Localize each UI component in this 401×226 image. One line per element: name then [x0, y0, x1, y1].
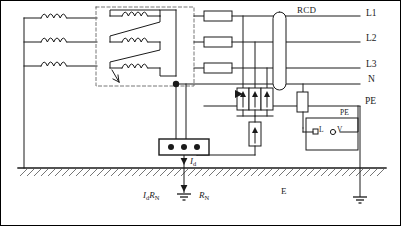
- earth-label: E: [281, 186, 287, 196]
- appliance-label-V: V: [337, 125, 342, 134]
- touch-voltage-label: IdRN: [143, 190, 159, 200]
- fuse-L1: [204, 11, 232, 21]
- fuse-L3: [204, 63, 232, 73]
- appliance-pe-label: PE: [340, 108, 349, 117]
- touch-voltage-sub-N: N: [155, 194, 160, 201]
- terminal-dot-2: [181, 144, 187, 150]
- terminal-dot-3: [194, 144, 200, 150]
- earth-resistance-subscript: N: [205, 194, 210, 201]
- touch-voltage-symbol-R: R: [149, 190, 155, 200]
- appliance-label-L: L: [319, 125, 324, 134]
- rail-label-L3: L3: [366, 59, 377, 69]
- terminal-dot-1: [168, 144, 174, 150]
- fuse-L2: [204, 37, 232, 47]
- rail-label-N: N: [368, 74, 375, 84]
- fault-current-label: Id: [190, 156, 196, 166]
- appliance-terminal-L: [313, 129, 318, 134]
- rcd-label: RCD: [297, 5, 316, 15]
- touch-voltage-sub-d: d: [146, 194, 149, 201]
- rail-label-PE: PE: [365, 96, 376, 106]
- circuit-diagram-canvas: L1 L2 L3 N PE RCD PE L V Id IdRN RN E: [0, 0, 401, 226]
- rcd-toroid: [273, 12, 286, 90]
- rail-label-L2: L2: [366, 33, 377, 43]
- surge-arrester-bank: [237, 88, 273, 110]
- earth-resistance-symbol: R: [199, 190, 205, 200]
- fault-current-subscript: d: [193, 160, 196, 167]
- rail-label-L1: L1: [366, 8, 377, 18]
- appliance-terminal-V: [330, 129, 335, 134]
- earth-resistance-label: RN: [199, 190, 209, 200]
- pe-device-box: [297, 92, 308, 112]
